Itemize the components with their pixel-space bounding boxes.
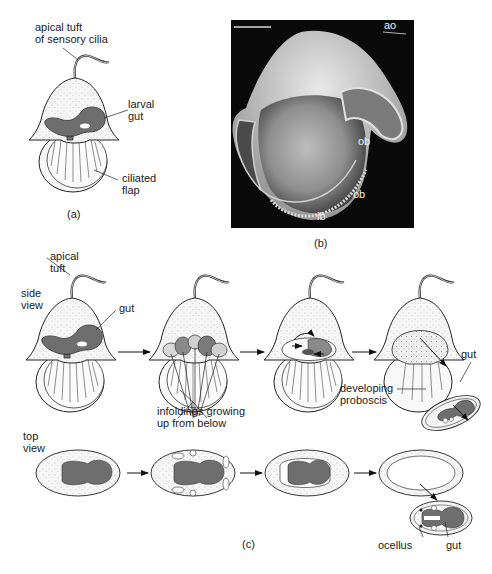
label-line: of sensory cilia <box>35 33 108 45</box>
top-view-stage-1 <box>36 450 120 496</box>
top-view-stage-3 <box>265 450 349 496</box>
sem-larva-image <box>231 20 414 228</box>
label-line: top <box>23 430 45 442</box>
label-line: larval <box>128 98 154 110</box>
label-ao: ao <box>384 20 396 31</box>
label-line: flap <box>122 184 156 196</box>
label-ib: ib <box>317 210 326 222</box>
top-view-stage-2 <box>151 450 235 496</box>
row-label-side-view: side view <box>21 287 43 311</box>
label-line: ciliated <box>122 172 156 184</box>
label-apical-tuft-a: apical tuft of sensory cilia <box>35 21 108 45</box>
label-ob-lower: ob <box>353 188 365 200</box>
caption-a: (a) <box>67 208 80 220</box>
label-larval-gut: larval gut <box>128 98 154 122</box>
label-line: up from below <box>157 417 245 429</box>
caption-b: (b) <box>314 237 327 249</box>
label-ocellus: ocellus <box>378 539 412 551</box>
label-apical-tuft-c: apical tuft <box>50 250 79 274</box>
label-gut-juvenile: gut <box>461 348 476 360</box>
label-infoldings: infoldings growing up from below <box>157 405 245 429</box>
label-gut-top: gut <box>446 539 461 551</box>
label-line: apical tuft <box>35 21 108 33</box>
row-label-top-view: top view <box>23 430 45 454</box>
larva-drawing-a <box>29 56 119 192</box>
sem-photo: ao ob ob ib <box>231 20 414 228</box>
top-view-stage-4 <box>379 450 463 496</box>
label-line: proboscis <box>340 394 393 406</box>
label-line: view <box>23 442 45 454</box>
side-view-stage-2 <box>149 276 239 416</box>
label-developing-proboscis: developing proboscis <box>340 382 393 406</box>
label-ob-upper: ob <box>358 135 370 147</box>
label-line: gut <box>128 110 154 122</box>
label-line: developing <box>340 382 393 394</box>
label-line: side <box>21 287 43 299</box>
label-line: apical <box>50 250 79 262</box>
label-ciliated-flap: ciliated flap <box>122 172 156 196</box>
label-gut-side: gut <box>119 302 134 314</box>
label-line: view <box>21 299 43 311</box>
juvenile-top-view <box>410 501 472 535</box>
caption-c: (c) <box>242 538 255 550</box>
label-line: tuft <box>50 262 79 274</box>
label-line: infoldings growing <box>157 405 245 417</box>
